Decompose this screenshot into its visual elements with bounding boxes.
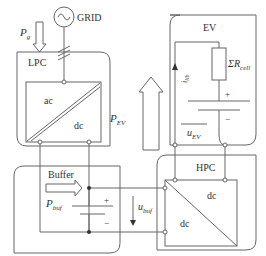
diagram-canvas: GRID LPC ac dc Pg EV ΣRcell ilib + − uEV… (0, 0, 266, 256)
ubuf-label: ubuf (138, 201, 153, 215)
buffer-label: Buffer (48, 169, 75, 180)
pev-label: PEV (109, 112, 126, 127)
cell-resistance-label: ΣRcell (227, 58, 250, 72)
pbuf-label: Pbuf (45, 197, 63, 212)
pbuf-arrow (46, 180, 82, 196)
cell-resistor (212, 48, 226, 80)
buffer-plus: + (104, 195, 109, 205)
current-label: ilib (180, 74, 190, 83)
hpc-label: HPC (196, 162, 216, 173)
grid-label: GRID (77, 12, 101, 23)
uev-label: uEV (187, 127, 201, 141)
ev-plus: + (225, 89, 230, 99)
lpc-label: LPC (28, 57, 47, 68)
lpc-dc-label: dc (74, 120, 84, 131)
hpc-dc-bottom-label: dc (180, 218, 190, 229)
pg-arrow (33, 22, 46, 52)
pev-arrow (139, 77, 163, 150)
hpc-dc-top-label: dc (207, 190, 217, 201)
ev-minus: − (225, 114, 230, 124)
pg-label: Pg (19, 26, 31, 41)
lpc-ac-label: ac (44, 95, 53, 106)
buffer-minus: − (104, 218, 109, 228)
ev-label: EV (203, 22, 217, 33)
